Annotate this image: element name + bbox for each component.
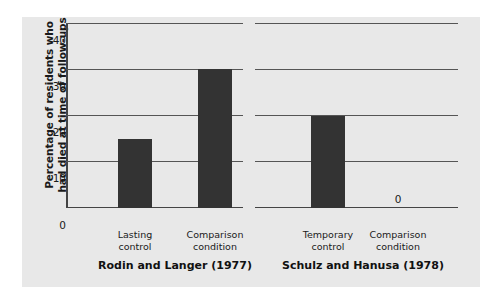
category-label-comparison-condition-left: Comparison condition (187, 229, 244, 252)
gridline-30 (255, 69, 458, 70)
bar-value-label-comparison-condition: 0 (395, 193, 402, 205)
category-label-line: control (303, 241, 353, 253)
category-label-line: control (118, 241, 152, 253)
category-label-line: Temporary (303, 229, 353, 241)
category-label-lasting-control: Lasting control (118, 229, 152, 252)
y-tick-40: 40 (44, 34, 66, 46)
category-label-line: condition (187, 241, 244, 253)
y-tick-10: 10 (44, 172, 66, 184)
y-axis-ticks: 40 30 20 10 0 (42, 0, 66, 270)
y-tick-20: 20 (44, 126, 66, 138)
panel-schulz-hanusa: 0 (255, 23, 458, 208)
category-label-line: Comparison (370, 229, 427, 241)
x-axis-baseline (255, 207, 458, 209)
gridline-20 (255, 115, 458, 116)
gridline-40 (66, 23, 243, 24)
panel-title-rodin-langer: Rodin and Langer (1977) (98, 259, 252, 272)
y-tick-0: 0 (44, 219, 66, 231)
panel-title-schulz-hanusa: Schulz and Hanusa (1978) (282, 259, 444, 272)
category-label-line: condition (370, 241, 427, 253)
category-label-comparison-condition-right: Comparison condition (370, 229, 427, 252)
gridline-40 (255, 23, 458, 24)
bar-comparison-condition (198, 69, 232, 208)
category-label-line: Comparison (187, 229, 244, 241)
bar-lasting-control (118, 139, 152, 208)
category-label-temporary-control: Temporary control (303, 229, 353, 252)
bar-temporary-control (311, 116, 345, 209)
panel-rodin-langer (66, 23, 243, 208)
gridline-10 (255, 161, 458, 162)
category-label-line: Lasting (118, 229, 152, 241)
chart-figure: Percentage of residents who had died at … (0, 0, 501, 302)
y-tick-30: 30 (44, 80, 66, 92)
